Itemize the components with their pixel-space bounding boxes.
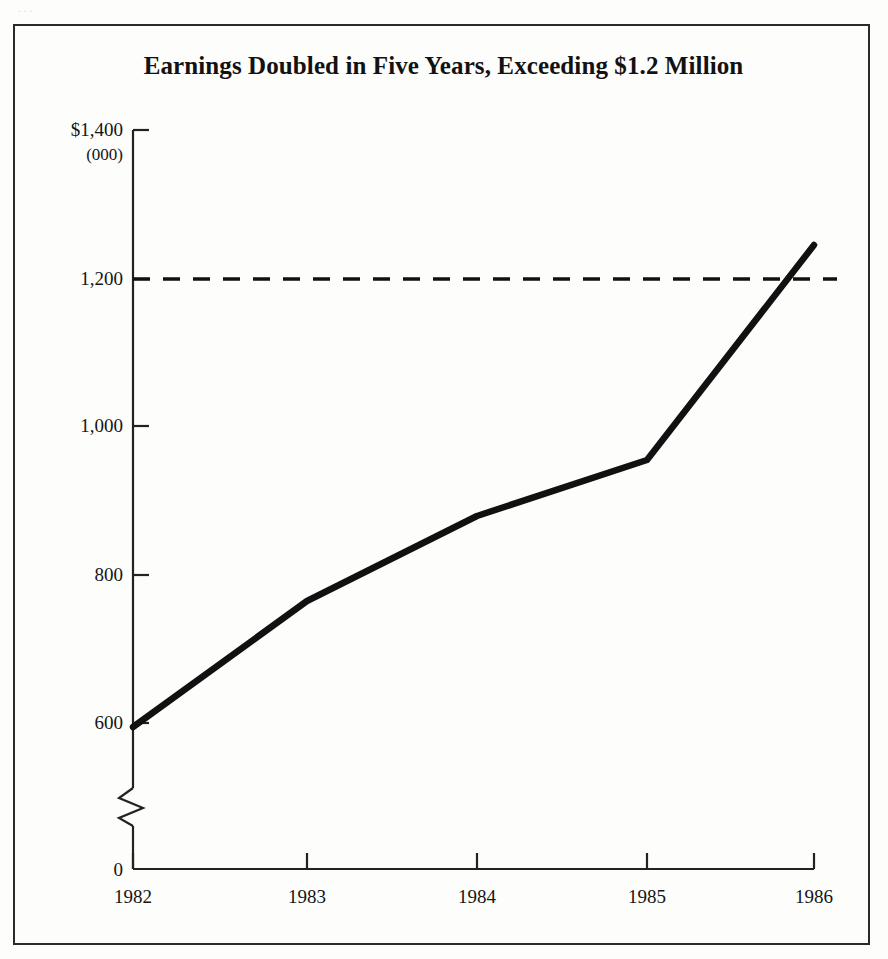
x-tick-label-1984: 1984	[458, 886, 497, 907]
x-tick-label-1986: 1986	[795, 886, 833, 907]
earnings-line-series	[133, 245, 814, 727]
y-unit-label: (000)	[86, 145, 123, 164]
line-chart: $1,400 (000) 1,200 1,000 800 600 0 1982 …	[15, 26, 872, 947]
page-bleed-text: ...	[18, 2, 35, 14]
y-tick-label-1000: 1,000	[80, 415, 123, 436]
axis-break-icon	[119, 788, 143, 826]
x-tick-label-1983: 1983	[288, 886, 326, 907]
figure-frame: Earnings Doubled in Five Years, Exceedin…	[13, 24, 870, 945]
x-tick-label-1982: 1982	[114, 886, 152, 907]
y-tick-label-1400: $1,400	[71, 119, 123, 140]
y-tick-label-800: 800	[95, 564, 124, 585]
y-tick-label-0: 0	[114, 859, 124, 880]
x-tick-label-1985: 1985	[628, 886, 666, 907]
y-tick-label-1200: 1,200	[80, 268, 123, 289]
y-tick-label-600: 600	[95, 712, 124, 733]
page-root: ... Earnings Doubled in Five Years, Exce…	[0, 0, 888, 959]
